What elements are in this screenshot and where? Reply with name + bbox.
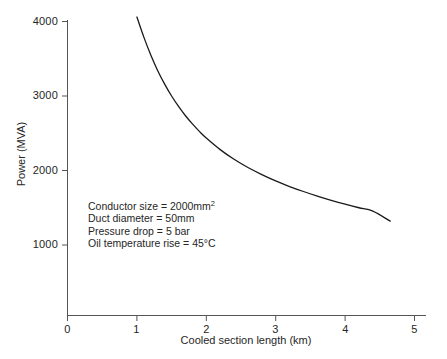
x-axis-title: Cooled section length (km) [67,334,425,346]
chart-figure: 4000 3000 2000 1000 0 1 2 3 4 5 Power (M… [0,0,447,359]
x-tick-marks [68,316,415,322]
y-tick-label-4000: 4000 [20,15,58,27]
data-series-line [137,17,390,221]
annotation-line-pressure-drop: Pressure drop = 5 bar [88,225,216,237]
y-tick-label-1000: 1000 [20,238,58,250]
annotation-conductor-size-text: Conductor size = 2000mm [88,200,211,212]
annotation-line-conductor-size: Conductor size = 2000mm2 [88,200,216,212]
plot-area [0,0,447,359]
annotation-superscript-2: 2 [211,199,215,208]
y-axis-title: Power (MVA) [15,99,27,209]
annotation-line-duct-diameter: Duct diameter = 50mm [88,212,216,224]
parameters-annotation: Conductor size = 2000mm2 Duct diameter =… [88,200,216,250]
annotation-line-oil-temperature-rise: Oil temperature rise = 45°C [88,237,216,249]
y-tick-marks [62,22,68,246]
